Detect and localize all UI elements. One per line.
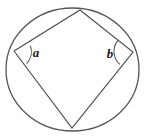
- angle-a-label: a: [33, 45, 40, 60]
- figure-background: [0, 0, 146, 139]
- cyclic-quadrilateral-svg: a b: [0, 0, 146, 139]
- angle-b-label: b: [107, 46, 114, 61]
- geometry-figure: a b: [0, 0, 146, 139]
